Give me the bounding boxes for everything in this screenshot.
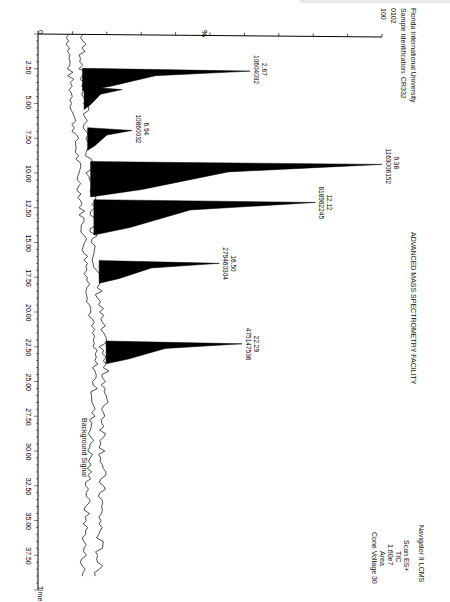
peak-rt-label: 12.12 (326, 194, 333, 211)
peak-area-label: 475147536 (245, 328, 252, 361)
peak-area-label: 279460304 (222, 247, 229, 280)
x-tick-label: 27.50 (25, 408, 32, 426)
percent-marker: % (200, 30, 208, 37)
y-zero-label: 0 (36, 30, 44, 34)
peak-area (99, 261, 219, 284)
peak-area (91, 162, 382, 197)
x-tick-label: 2.50 (25, 61, 32, 75)
peak-area (94, 200, 316, 235)
peak-areas (82, 68, 382, 363)
chart-axes: 2.505.007.5010.0012.5015.0017.5020.0022.… (25, 31, 382, 590)
x-tick-label: 20.00 (25, 304, 32, 322)
x-tick-label: 22.50 (25, 339, 32, 357)
x-axis-title: Time (36, 586, 44, 601)
x-tick-label: 37.50 (25, 547, 32, 565)
peak-area-label: 10860032 (135, 114, 142, 143)
x-tick-label: 10.00 (25, 165, 32, 183)
peak-rt-label: 9.38 (393, 156, 400, 169)
chromatogram-chart: 2.505.007.5010.0012.5015.0017.5020.0022.… (0, 0, 450, 602)
peak-rt-label: 22.29 (253, 336, 260, 353)
x-tick-label: 15.00 (25, 235, 32, 253)
peak-area-label: 1163006152 (385, 148, 392, 184)
peak-area-label: 818982245 (318, 186, 325, 219)
peak-area (106, 341, 242, 364)
peak-rt-label: 6.94 (143, 122, 150, 135)
x-tick-label: 7.50 (25, 130, 32, 144)
peak-rt-label: 2.67 (261, 63, 268, 76)
peak-area (84, 87, 122, 110)
x-tick-label: 30.00 (25, 443, 32, 461)
x-tick-label: 32.50 (25, 478, 32, 496)
peak-area (82, 68, 250, 91)
background-signal-label: Background Signal (80, 418, 88, 477)
peak-area (88, 128, 132, 151)
x-tick-label: 35.00 (25, 513, 32, 531)
x-tick-label: 5.00 (25, 96, 32, 110)
x-tick-label: 12.50 (25, 200, 32, 218)
x-tick-label: 25.00 (25, 374, 32, 392)
background-trace (66, 34, 109, 576)
peak-area-label: 10604032 (253, 55, 260, 84)
x-tick-label: 17.50 (25, 269, 32, 287)
peak-rt-label: 16.50 (230, 255, 237, 272)
